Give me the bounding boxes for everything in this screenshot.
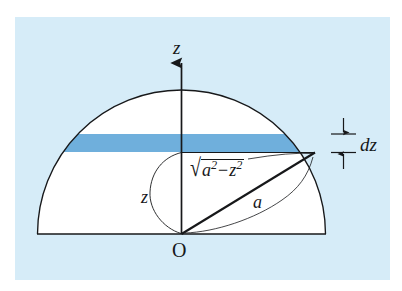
radicand-z-exponent: 2	[236, 158, 242, 172]
square-root-expression: √a2−z2	[190, 160, 244, 180]
figure-container: z z a dz O √a2−z2	[0, 0, 402, 291]
hemisphere-diagram	[0, 0, 402, 291]
radius-a-label: a	[253, 193, 262, 211]
chord-length-label: √a2−z2	[190, 160, 244, 180]
radical-sign: √	[190, 154, 201, 179]
radicand-minus: −	[217, 160, 229, 180]
thickness-dz-label: dz	[360, 135, 377, 154]
z-axis-label: z	[173, 38, 180, 57]
radicand-a-base: a	[202, 160, 211, 180]
origin-label: O	[172, 240, 186, 260]
radicand: a2−z2	[201, 159, 244, 179]
height-z-label: z	[141, 188, 148, 206]
